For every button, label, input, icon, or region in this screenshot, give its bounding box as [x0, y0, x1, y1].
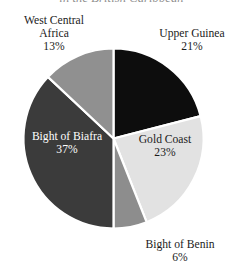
pie-slice-label-gold-coast: Gold Coast 23% [122, 133, 208, 159]
pie-slice-label-upper-guinea: Upper Guinea 21% [142, 27, 242, 53]
pie-slice-label-name: Upper Guinea [142, 27, 242, 40]
pie-slice-label-bight-of-biafra: Bight of Biafra 37% [14, 130, 120, 156]
pie-slice-label-value: 6% [128, 251, 232, 264]
pie-slice-label-name: Gold Coast [122, 133, 208, 146]
pie-slice-label-name: Bight of Benin [128, 238, 232, 251]
pie-slice-label-value: 37% [14, 143, 120, 156]
pie-slice-label-name: Bight of Biafra [14, 130, 120, 143]
pie-slice-label-value: 13% [2, 40, 106, 53]
pie-slice-label-west-central-africa: West Central Africa 13% [2, 14, 106, 53]
pie-slice-label-bight-of-benin: Bight of Benin 6% [128, 238, 232, 264]
pie-slice-label-name-cont: Africa [2, 27, 106, 40]
pie-chart-figure: in the British Caribbean West Central Af… [0, 0, 243, 266]
pie-slice-label-value: 23% [122, 146, 208, 159]
pie-slice-label-value: 21% [142, 40, 242, 53]
pie-slice-label-name: West Central [2, 14, 106, 27]
